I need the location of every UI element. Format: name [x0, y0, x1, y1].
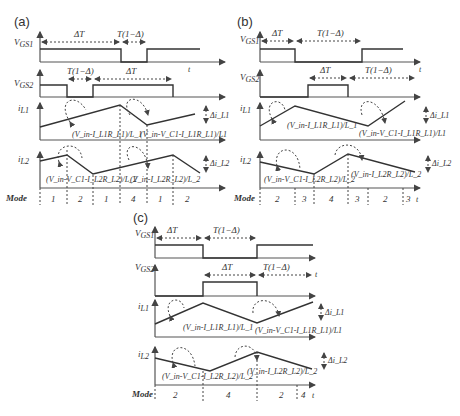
mode-5: 2 — [383, 194, 388, 204]
vgs2-label: VGS2 — [240, 72, 259, 84]
t-label: t — [315, 270, 318, 279]
ripple-il1: Δi_L1 — [324, 308, 344, 317]
panel-a: (a) VGS1 ΔT T(1−Δ) t VGS2 T(1−Δ) ΔT iL1 … — [5, 14, 229, 205]
ripple-il2: Δi_L2 — [327, 356, 347, 365]
mode-6: 3 — [405, 194, 411, 204]
vgs1-waveform — [40, 49, 200, 62]
vgs2-span-dt: ΔT — [221, 262, 233, 272]
il1-label: iL1 — [138, 301, 149, 313]
il1-waveform — [155, 302, 313, 324]
mode-1: 1 — [51, 194, 56, 204]
mode-4: 3 — [354, 194, 360, 204]
t-label: t — [188, 65, 191, 74]
ripple-il2: Δi_L2 — [209, 159, 229, 168]
mode-4: 4 — [301, 390, 306, 400]
mode-4: 4 — [131, 194, 136, 204]
il1-slope-rise: (V_in-I_L1R_L1)/L_1 — [72, 130, 142, 139]
vgs1-label: VGS1 — [14, 37, 33, 49]
il1-slope-rise: (V_in-I_L1R_L1)/L_1 — [183, 323, 253, 332]
il2-slope-fall: (V_in-V_C1-I_L2R_L2)/L_2 — [46, 175, 137, 184]
il1-slope-fall: (V_in-V_C1-I_L1R_L1)/L1 — [359, 129, 446, 138]
vgs1-span-dt: ΔT — [166, 225, 178, 235]
il2-slope-rise: (V_in-I_L2R_L2)/L_2 — [247, 367, 317, 376]
vgs1-label: VGS1 — [135, 228, 154, 240]
vgs1-waveform — [260, 49, 403, 62]
vgs1-label: VGS1 — [240, 34, 259, 46]
il2-label: iL2 — [240, 154, 251, 166]
vgs2-span-t1d: T(1−Δ) — [263, 262, 290, 272]
vgs2-span-dt: ΔT — [319, 65, 331, 75]
vgs2-waveform — [260, 85, 348, 97]
mode-label: Mode — [131, 389, 153, 399]
vgs2-span-t1d: T(1−Δ) — [365, 65, 392, 75]
il1-slope-rise: (V_in-I_L1R_L1)/L_1 — [287, 121, 357, 130]
vgs1-span-dt: ΔT — [73, 29, 85, 39]
waveform-diagram: (a) VGS1 ΔT T(1−Δ) t VGS2 T(1−Δ) ΔT iL1 … — [0, 0, 460, 416]
vgs1-waveform — [155, 245, 313, 258]
vgs2-waveform — [40, 85, 173, 97]
mode-5: 1 — [158, 194, 163, 204]
il2-slope-rise: (V_in-I_L2R_L2)/L_2 — [130, 175, 200, 184]
vgs2-waveform — [155, 282, 257, 296]
panel-b-label: (b) — [237, 14, 253, 29]
ripple-il2: Δi_L2 — [431, 159, 451, 168]
t-label: t — [419, 65, 422, 74]
mode-1: 2 — [275, 194, 280, 204]
il2-slope-rise: (V_in-I_L2R_L2)/L_2 — [351, 170, 421, 179]
vgs2-span-dt: ΔT — [125, 66, 137, 76]
mode-6: 2 — [185, 194, 190, 204]
il1-slope-fall: (V_in-V_C1-I_L1R_L1)/L1 — [255, 326, 342, 335]
il2-label: iL2 — [18, 154, 29, 166]
t-label: t — [416, 195, 419, 204]
panel-a-label: (a) — [14, 14, 30, 29]
mode-3: 1 — [104, 194, 109, 204]
vgs1-span-t1d: T(1−Δ) — [117, 29, 144, 39]
il1-label: iL1 — [18, 103, 29, 115]
mode-2: 4 — [226, 390, 231, 400]
vgs1-span-dt: ΔT — [271, 28, 283, 38]
il2-slope-fall: (V_in-V_C1-I_L2R_L2)/L_2 — [162, 372, 253, 381]
mode-2: 2 — [78, 194, 83, 204]
t-label: t — [312, 391, 315, 400]
mode-1: 2 — [173, 390, 178, 400]
il1-label: iL1 — [240, 103, 251, 115]
ripple-il1: Δi_L1 — [209, 111, 229, 120]
mode-3: 2 — [279, 390, 284, 400]
ripple-il1: Δi_L1 — [429, 111, 449, 120]
mode-label: Mode — [5, 193, 27, 203]
mode-3: 4 — [329, 194, 334, 204]
il2-slope-fall: (V_in-V_C1-I_L2R_L2)/L_2 — [264, 175, 355, 184]
panel-c-label: (c) — [133, 210, 148, 225]
vgs1-span-t1d: T(1−Δ) — [317, 28, 344, 38]
vgs1-span-t1d: T(1−Δ) — [213, 225, 240, 235]
panel-c: (c) VGS1 ΔT T(1−Δ) VGS2 ΔT T(1−Δ) t iL1 … — [131, 210, 347, 401]
il1-waveform — [40, 105, 195, 127]
mode-label: Mode — [233, 193, 255, 203]
il1-slope-fall: (V_in-V_C1-I_L1R_L1)/L1 — [140, 130, 227, 139]
vgs2-label: VGS2 — [135, 262, 154, 274]
vgs2-span-t1d: T(1−Δ) — [67, 66, 94, 76]
mode-2: 3 — [301, 194, 307, 204]
vgs2-label: VGS2 — [14, 78, 33, 90]
il2-label: iL2 — [138, 349, 149, 361]
panel-b: (b) VGS1 ΔT T(1−Δ) t VGS2 ΔT T(1−Δ) iL1 … — [233, 14, 451, 205]
